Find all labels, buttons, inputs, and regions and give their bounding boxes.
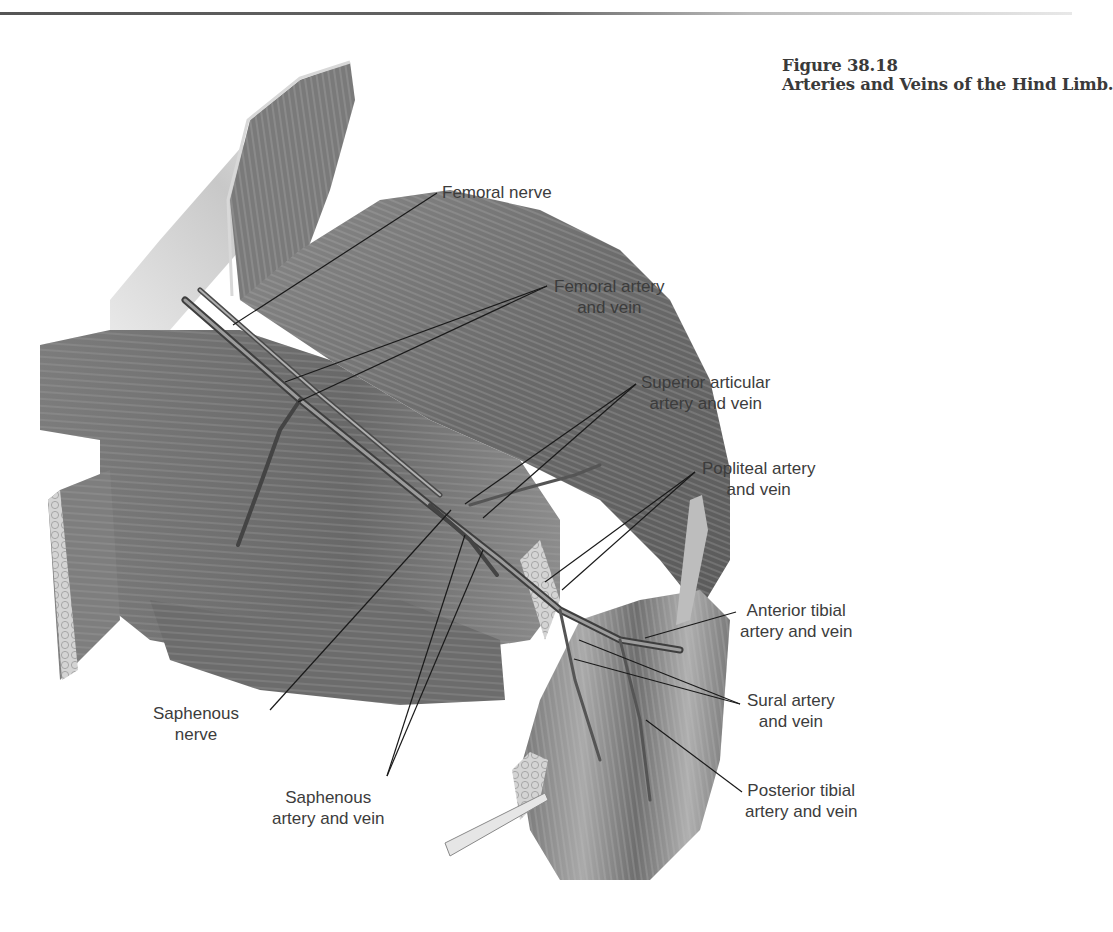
label-saphenous-nerve: Saphenous nerve — [153, 703, 239, 745]
label-posterior-tibial: Posterior tibial artery and vein — [745, 780, 857, 822]
label-anterior-tibial: Anterior tibial artery and vein — [740, 600, 852, 642]
label-popliteal: Popliteal artery and vein — [702, 458, 815, 500]
label-femoral-artery-vein: Femoral artery and vein — [554, 276, 665, 318]
label-saphenous-artery-vein: Saphenous artery and vein — [272, 787, 384, 829]
label-superior-articular: Superior articular artery and vein — [641, 372, 770, 414]
label-femoral-nerve: Femoral nerve — [442, 182, 552, 203]
label-sural: Sural artery and vein — [747, 690, 835, 732]
